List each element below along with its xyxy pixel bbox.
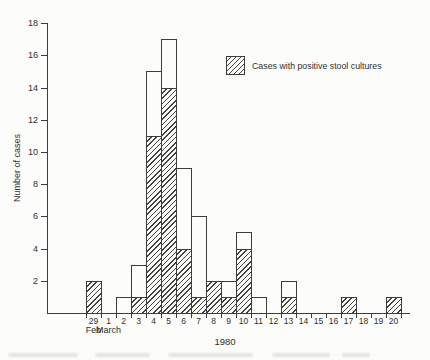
x-axis-day-label: 13 bbox=[281, 317, 296, 326]
y-axis-tick-label: 10 bbox=[16, 148, 38, 157]
y-axis-tick bbox=[41, 23, 47, 24]
x-axis-day-label: 18 bbox=[356, 317, 371, 326]
x-axis-month-label: March bbox=[96, 326, 121, 335]
bar-positive-stool-cultures bbox=[176, 249, 192, 313]
y-axis-tick bbox=[41, 184, 47, 185]
x-axis-day-label: 5 bbox=[161, 317, 176, 326]
bar-positive-stool-cultures bbox=[341, 297, 357, 313]
bar-total-cases bbox=[116, 297, 132, 313]
bar-positive-stool-cultures bbox=[386, 297, 402, 313]
bar-positive-stool-cultures bbox=[161, 88, 177, 313]
y-axis-tick bbox=[41, 249, 47, 250]
y-axis-tick bbox=[41, 281, 47, 282]
cutoff-caption-smudge bbox=[8, 353, 78, 357]
x-axis-day-label: 14 bbox=[296, 317, 311, 326]
y-axis-tick-label: 4 bbox=[16, 245, 38, 254]
bar-positive-stool-cultures bbox=[221, 297, 237, 313]
cutoff-caption-smudge bbox=[272, 353, 330, 357]
x-axis-day-label: 6 bbox=[176, 317, 191, 326]
x-axis-day-label: 10 bbox=[236, 317, 251, 326]
x-axis-day-label: 12 bbox=[266, 317, 281, 326]
x-axis-day-label: 7 bbox=[191, 317, 206, 326]
x-axis-day-label: 20 bbox=[386, 317, 401, 326]
x-axis-day-label: 11 bbox=[251, 317, 266, 326]
y-axis-tick bbox=[41, 216, 47, 217]
bar-positive-stool-cultures bbox=[146, 136, 162, 313]
bar-positive-stool-cultures bbox=[191, 297, 207, 313]
x-axis-day-label: 17 bbox=[341, 317, 356, 326]
x-axis-day-label: 15 bbox=[311, 317, 326, 326]
cutoff-caption-smudge bbox=[168, 353, 253, 357]
legend-label: Cases with positive stool cultures bbox=[252, 61, 382, 71]
hatched-swatch-icon bbox=[226, 56, 245, 75]
x-axis-day-label: 8 bbox=[206, 317, 221, 326]
y-axis-tick-label: 18 bbox=[16, 19, 38, 28]
x-axis-day-label: 16 bbox=[326, 317, 341, 326]
x-axis-year-label: 1980 bbox=[160, 336, 290, 347]
legend: Cases with positive stool cultures bbox=[226, 56, 382, 75]
bar-total-cases bbox=[251, 297, 267, 313]
y-axis-tick-label: 12 bbox=[16, 116, 38, 125]
y-axis-tick bbox=[41, 120, 47, 121]
bar-positive-stool-cultures bbox=[281, 297, 297, 313]
y-axis-tick-label: 2 bbox=[16, 277, 38, 286]
x-axis-day-label: 3 bbox=[131, 317, 146, 326]
y-axis-tick-label: 8 bbox=[16, 180, 38, 189]
y-axis-tick bbox=[41, 55, 47, 56]
cutoff-caption-smudge bbox=[95, 353, 150, 357]
y-axis-tick-label: 14 bbox=[16, 84, 38, 93]
y-axis-tick bbox=[41, 152, 47, 153]
cutoff-caption-smudge bbox=[342, 353, 370, 357]
bar-positive-stool-cultures bbox=[86, 281, 102, 313]
x-axis-day-label: 9 bbox=[221, 317, 236, 326]
x-axis-day-label: 19 bbox=[371, 317, 386, 326]
y-axis-tick-label: 6 bbox=[16, 212, 38, 221]
x-axis-day-label: 4 bbox=[146, 317, 161, 326]
epidemic-curve-figure: Number of cases Cases with positive stoo… bbox=[0, 0, 430, 360]
bar-positive-stool-cultures bbox=[131, 297, 147, 313]
y-axis-line bbox=[47, 23, 48, 314]
y-axis-tick bbox=[41, 88, 47, 89]
bar-positive-stool-cultures bbox=[206, 281, 222, 313]
bar-positive-stool-cultures bbox=[236, 249, 252, 313]
y-axis-title: Number of cases bbox=[12, 134, 22, 202]
x-axis-tick bbox=[401, 314, 402, 318]
y-axis-tick-label: 16 bbox=[16, 51, 38, 60]
